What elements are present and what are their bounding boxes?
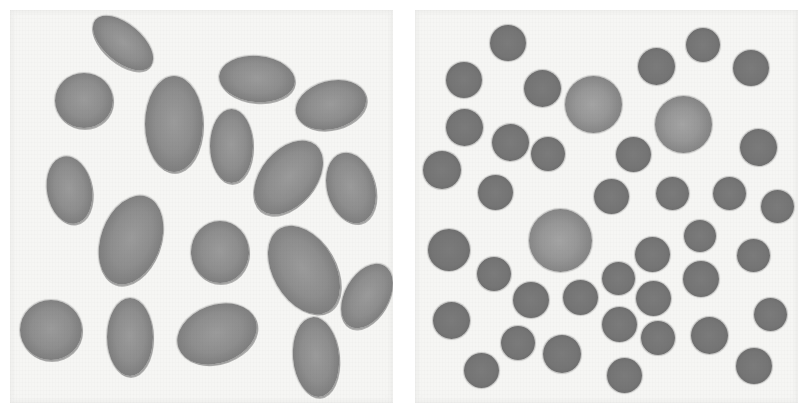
round-blood-cell (736, 348, 772, 384)
round-blood-cell (543, 335, 581, 373)
large-round-blood-cell (565, 76, 622, 133)
large-round-blood-cell (655, 96, 712, 153)
round-blood-cell (602, 262, 635, 295)
large-round-blood-cell (529, 209, 592, 272)
round-cells-panel (415, 10, 798, 403)
oval-blood-cell (20, 300, 82, 360)
round-blood-cell (524, 70, 561, 107)
round-blood-cell (656, 177, 689, 210)
round-blood-cell (446, 62, 482, 98)
oval-cells-panel (10, 10, 393, 403)
oval-blood-cell (210, 109, 253, 183)
oval-blood-cell (169, 293, 266, 376)
round-blood-cell (740, 129, 777, 166)
oval-blood-cell (290, 315, 343, 399)
round-blood-cell (733, 50, 769, 86)
oval-blood-cell (290, 73, 372, 138)
round-blood-cell (641, 321, 675, 355)
oval-blood-cell (55, 73, 113, 128)
oval-blood-cell (191, 221, 249, 283)
oval-blood-cell (107, 298, 153, 376)
round-blood-cell (501, 326, 535, 360)
round-blood-cell (737, 239, 770, 272)
oval-blood-cell (253, 213, 355, 327)
round-blood-cell (490, 25, 526, 61)
oval-blood-cell (41, 153, 97, 228)
round-blood-cell (684, 220, 716, 252)
round-blood-cell (594, 179, 629, 214)
round-blood-cell (446, 109, 483, 146)
round-blood-cell (754, 298, 787, 331)
round-blood-cell (607, 358, 642, 393)
round-blood-cell (531, 137, 565, 171)
round-blood-cell (513, 282, 549, 318)
oval-blood-cell (217, 53, 297, 105)
round-blood-cell (602, 307, 637, 342)
round-blood-cell (563, 280, 598, 315)
round-blood-cell (616, 137, 651, 172)
round-blood-cell (464, 353, 499, 388)
round-blood-cell (423, 151, 461, 189)
oval-blood-cell (83, 10, 163, 81)
round-blood-cell (428, 229, 470, 271)
round-blood-cell (691, 317, 728, 354)
round-blood-cell (478, 175, 513, 210)
round-blood-cell (638, 48, 675, 85)
round-blood-cell (686, 28, 720, 62)
oval-blood-cell (87, 187, 175, 294)
round-blood-cell (683, 261, 719, 297)
round-blood-cell (477, 257, 511, 291)
round-blood-cell (492, 124, 529, 161)
oval-blood-cell (319, 147, 384, 229)
oval-blood-cell (330, 255, 393, 338)
oval-blood-cell (240, 127, 337, 227)
round-blood-cell (761, 190, 794, 223)
round-blood-cell (636, 281, 671, 316)
round-blood-cell (713, 177, 746, 210)
round-blood-cell (635, 237, 670, 272)
round-blood-cell (433, 302, 470, 339)
oval-blood-cell (145, 76, 203, 172)
